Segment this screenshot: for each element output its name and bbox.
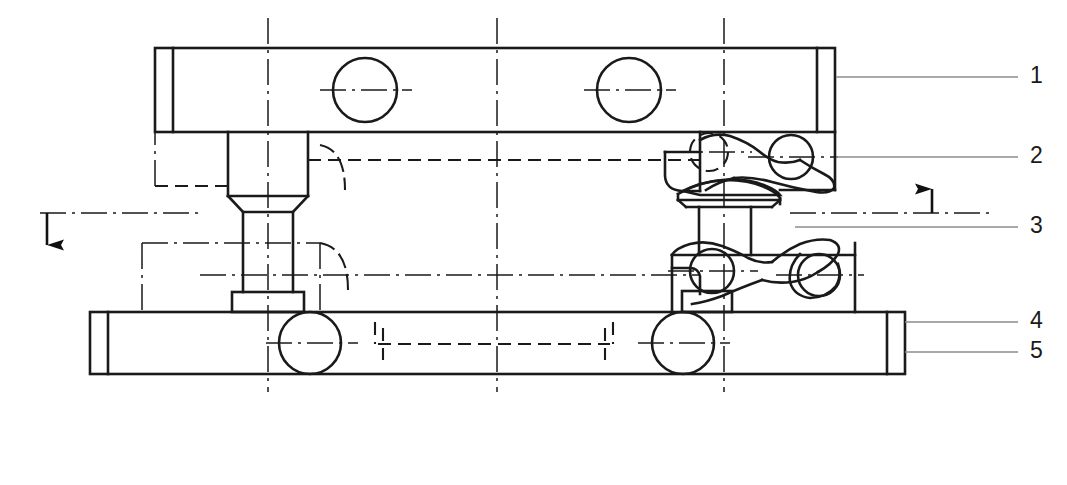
callout-label-5: 5 bbox=[1030, 339, 1043, 362]
callout-label-2: 2 bbox=[1030, 144, 1043, 167]
hidden-slot-step bbox=[375, 322, 613, 344]
center-line-group bbox=[40, 18, 990, 392]
assembly-drawing-svg bbox=[0, 0, 1067, 485]
fillet-arc-upper bbox=[320, 145, 345, 190]
fillet-arc-group bbox=[320, 145, 348, 290]
callout-label-3: 3 bbox=[1030, 214, 1043, 237]
upper-cam-handle bbox=[734, 160, 834, 193]
section-arrow-group bbox=[47, 189, 932, 245]
fillet-arc-lower bbox=[320, 243, 348, 290]
technical-drawing-canvas: 1 2 3 4 5 bbox=[0, 0, 1067, 485]
callout-label-1: 1 bbox=[1030, 64, 1043, 87]
callout-label-4: 4 bbox=[1030, 309, 1043, 332]
top-bar-body bbox=[155, 48, 835, 132]
hidden-line-group bbox=[155, 133, 728, 360]
hidden-slot-sides bbox=[383, 328, 605, 360]
upper-cam-profile-top bbox=[700, 135, 800, 163]
